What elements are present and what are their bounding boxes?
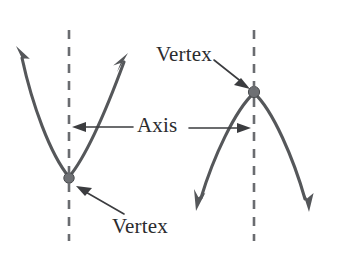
downward-parabola-right-arrowhead (302, 191, 313, 212)
axis-label: Axis (137, 115, 177, 136)
upward-parabola-group (16, 46, 128, 183)
vertex-top-label: Vertex (156, 44, 212, 65)
upward-parabola-curve (22, 58, 124, 177)
vertex-top-leader-line (214, 60, 243, 83)
vertex-bottom-label: Vertex (112, 216, 168, 237)
parabola-diagram: Vertex Axis Vertex (0, 0, 338, 257)
vertex-top-leader-arrowhead (234, 78, 250, 89)
vertex-bottom-leader (76, 186, 124, 214)
axis-leader-right-arrowhead (237, 123, 251, 133)
vertex-bottom-leader-line (84, 191, 124, 214)
axis-leader-right (189, 123, 251, 133)
axis-leader-left (72, 122, 133, 132)
vertex-top-leader (214, 60, 250, 89)
axis-leader-left-arrowhead (72, 122, 86, 132)
